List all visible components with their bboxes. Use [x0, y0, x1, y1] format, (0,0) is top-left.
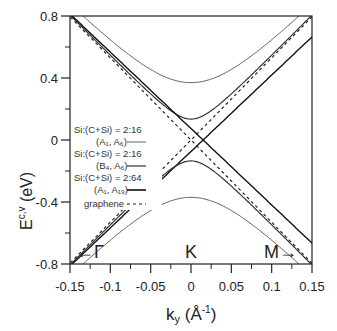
legend-3-line2: (A₁, A₁₉)	[94, 184, 128, 195]
m-point-label: M→	[264, 242, 297, 262]
x-tick-label: -0.15	[55, 279, 85, 294]
legend-1-line1: Si:(C+Si) = 2:16	[74, 124, 142, 135]
y-axis-label: Ec,v (eV)	[16, 172, 35, 230]
curve-2-16-A1A6	[62, 0, 320, 83]
x-axis-label: ky (Å-1)	[166, 304, 216, 325]
legend-2-line2: (B₄, A₆)	[96, 160, 127, 171]
x-tick-label: -0.1	[99, 279, 121, 294]
x-tick-label: 0.05	[219, 279, 244, 294]
y-tick-label: 0.8	[40, 9, 58, 24]
legend: Si:(C+Si) = 2:16 (A₁, A₆) Si:(C+Si) = 2:…	[72, 124, 162, 210]
x-tick-label: 0.1	[263, 279, 281, 294]
curve-2-16-B4A6	[62, 7, 320, 119]
x-tick-label: -0.05	[136, 279, 166, 294]
y-tick-label: -0.4	[36, 195, 58, 210]
legend-4-label: graphene	[84, 198, 124, 209]
gamma-label: ←Γ	[76, 242, 104, 262]
x-tick-label: 0.15	[299, 279, 324, 294]
k-point-label: K	[185, 242, 197, 262]
legend-2-line1: Si:(C+Si) = 2:16	[74, 148, 142, 159]
x-tick-label: 0	[187, 279, 194, 294]
y-tick-label: -0.8	[36, 257, 58, 272]
legend-1-line2: (A₁, A₆)	[96, 136, 127, 147]
y-tick-label: 0	[51, 133, 58, 148]
y-tick-label: 0.4	[40, 71, 58, 86]
band-structure-chart: -0.15-0.1-0.0500.050.10.150.80.40-0.4-0.…	[0, 0, 337, 331]
legend-3-line1: Si:(C+Si) = 2:64	[74, 172, 142, 183]
